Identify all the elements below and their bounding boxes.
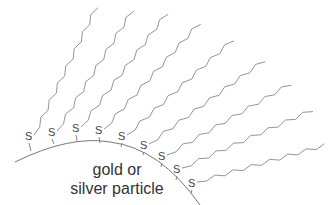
alkyl-chain (104, 24, 201, 129)
alkyl-chain (197, 144, 324, 182)
alkyl-chain (149, 62, 265, 144)
sulfur-atom-label: S (25, 130, 32, 142)
sulfur-atom-label: S (140, 139, 147, 151)
sulfur-atom-label: S (48, 126, 55, 138)
s-surface-bond (99, 137, 100, 143)
sulfur-atom-label: S (173, 163, 180, 175)
sulfur-atom-label: S (158, 150, 165, 162)
alkyl-chain (167, 85, 291, 155)
s-surface-bond (29, 143, 31, 151)
alkyl-chain (182, 112, 313, 168)
sulfur-atom-label: S (95, 124, 102, 136)
particle-label-line1: gold or (52, 160, 182, 179)
alkyl-chain (34, 8, 98, 135)
s-surface-bond (76, 135, 77, 141)
particle-label-line2: silver particle (52, 179, 182, 198)
alkyl-chain (127, 41, 234, 135)
s-surface-bond (52, 139, 54, 144)
sulfur-atom-label: S (118, 130, 125, 142)
particle-label: gold or silver particle (52, 160, 182, 198)
alkyl-chain (57, 11, 134, 131)
s-surface-bond (191, 190, 192, 193)
sulfur-atom-label: S (188, 177, 195, 189)
sulfur-atom-label: S (72, 122, 79, 134)
